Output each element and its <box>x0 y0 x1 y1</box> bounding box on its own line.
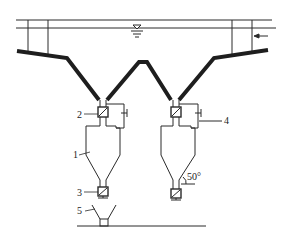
label-cone-angle: 50° <box>187 171 201 182</box>
hopper-bottom <box>17 50 268 100</box>
receiving-funnel <box>92 205 116 226</box>
water-level-icon <box>131 25 143 37</box>
label-valve-3: 3 <box>77 187 82 198</box>
label-valve-2: 2 <box>77 109 82 120</box>
right-cyclone <box>161 124 195 200</box>
right-outlet <box>171 100 222 128</box>
left-outlet <box>98 100 127 128</box>
inflow-arrow-icon <box>254 34 268 38</box>
left-cyclone <box>86 124 120 198</box>
label-cyclone-1: 1 <box>73 149 78 160</box>
tank-top-lines <box>16 20 276 28</box>
diagram: 2 1 3 4 5 50° <box>0 0 290 240</box>
label-bypass-4: 4 <box>224 115 229 126</box>
label-funnel-5: 5 <box>77 205 82 216</box>
